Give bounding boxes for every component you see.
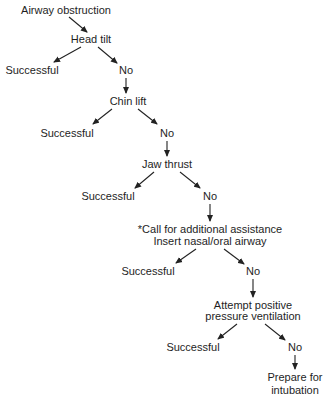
node-successful-4: Successful xyxy=(121,265,174,277)
node-successful-1: Successful xyxy=(5,64,58,76)
airway-flowchart: Airway obstruction Head tilt Successful … xyxy=(0,0,328,401)
arrow-headtilt-to-successful xyxy=(54,47,81,62)
arrow-start-to-headtilt xyxy=(69,17,87,32)
arrow-ppv-to-no xyxy=(265,324,285,340)
node-no-2: No xyxy=(160,127,174,139)
arrow-jawthrust-to-no xyxy=(180,172,200,188)
node-chin-lift: Chin lift xyxy=(110,95,147,107)
arrow-chinlift-to-successful xyxy=(93,109,112,124)
arrow-chinlift-to-no xyxy=(138,109,157,124)
node-no-4: No xyxy=(246,265,260,277)
node-head-tilt: Head tilt xyxy=(71,33,111,45)
node-airway-obstruction: Airway obstruction xyxy=(21,4,111,16)
node-no-1: No xyxy=(119,64,133,76)
arrow-assist-to-no xyxy=(224,249,244,264)
node-successful-5: Successful xyxy=(166,341,219,353)
node-successful-2: Successful xyxy=(40,127,93,139)
node-prepare-intubation-line2: intubation xyxy=(271,384,319,396)
arrow-ppv-to-successful xyxy=(218,324,237,339)
node-insert-airway: Insert nasal/oral airway xyxy=(153,235,266,247)
flowchart-arrows xyxy=(0,0,328,401)
node-no-5: No xyxy=(288,341,302,353)
node-attempt-ppv-line2: pressure ventilation xyxy=(205,310,300,322)
node-prepare-intubation-line1: Prepare for xyxy=(267,371,322,383)
node-call-assistance: *Call for additional assistance xyxy=(138,223,282,235)
node-no-3: No xyxy=(203,190,217,202)
node-successful-3: Successful xyxy=(81,190,134,202)
arrow-headtilt-to-no xyxy=(98,47,117,63)
arrow-jawthrust-to-successful xyxy=(135,172,154,188)
arrow-assist-to-successful xyxy=(176,249,196,263)
node-jaw-thrust: Jaw thrust xyxy=(142,158,192,170)
